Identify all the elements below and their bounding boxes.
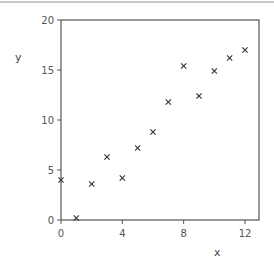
y-tick-label: 5 — [48, 165, 54, 176]
data-points — [58, 47, 247, 220]
x-marker-icon — [242, 47, 247, 52]
plot-frame — [61, 20, 259, 220]
y-tick-label: 0 — [48, 215, 54, 226]
y-axis-ticks: 05101520 — [41, 15, 61, 226]
plot-border — [61, 20, 259, 220]
x-marker-icon — [104, 154, 109, 159]
x-tick-label: 0 — [58, 228, 64, 239]
x-marker-icon — [166, 99, 171, 104]
x-axis-label: x — [214, 246, 221, 259]
x-marker-icon — [212, 68, 217, 73]
x-tick-label: 12 — [239, 228, 252, 239]
y-tick-label: 10 — [41, 115, 54, 126]
x-axis-ticks: 04812 — [58, 220, 252, 239]
y-axis-label: y — [15, 51, 22, 64]
x-marker-icon — [120, 175, 125, 180]
x-tick-label: 8 — [180, 228, 186, 239]
scatter-chart: 05101520 04812 y x — [0, 0, 274, 268]
x-marker-icon — [227, 55, 232, 60]
y-tick-label: 15 — [41, 65, 54, 76]
x-marker-icon — [135, 145, 140, 150]
y-tick-label: 20 — [41, 15, 54, 26]
x-marker-icon — [181, 63, 186, 68]
x-marker-icon — [196, 93, 201, 98]
x-marker-icon — [89, 181, 94, 186]
x-tick-label: 4 — [119, 228, 125, 239]
x-marker-icon — [150, 129, 155, 134]
